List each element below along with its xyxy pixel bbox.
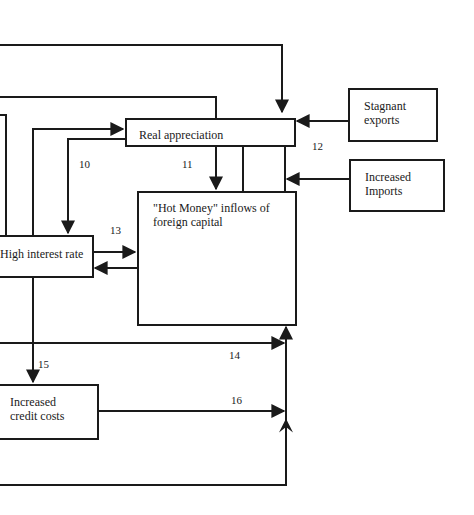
node-credit-costs-line1: Increased xyxy=(10,395,97,409)
node-increased-imports: Increased Imports xyxy=(349,159,445,212)
node-high-interest-rate-label: High interest rate xyxy=(0,247,92,261)
node-increased-imports-line1: Increased xyxy=(365,170,443,184)
edge-label-16: 16 xyxy=(231,394,242,406)
node-stagnant-exports: Stagnant exports xyxy=(348,88,438,142)
node-hot-money: "Hot Money" inflows of foreign capital xyxy=(137,191,297,326)
edge-top-feedback xyxy=(0,45,282,112)
node-real-appreciation: Real appreciation xyxy=(125,118,296,147)
edge-second-feedback xyxy=(0,97,216,118)
node-high-interest-rate: High interest rate xyxy=(0,235,94,278)
edge-label-14: 14 xyxy=(229,349,240,361)
node-stagnant-exports-line2: exports xyxy=(364,113,436,127)
edge-label-13: 13 xyxy=(110,224,121,236)
edge-label-10: 10 xyxy=(79,158,90,170)
edge-label-15: 15 xyxy=(38,358,49,370)
node-credit-costs-line2: credit costs xyxy=(10,409,97,423)
node-stagnant-exports-line1: Stagnant xyxy=(364,99,436,113)
node-real-appreciation-label: Real appreciation xyxy=(139,128,294,142)
edge-10 xyxy=(68,139,125,233)
edge-hir-to-ra xyxy=(33,129,123,235)
node-increased-credit-costs: Increased credit costs xyxy=(0,384,99,440)
edge-label-11: 11 xyxy=(182,158,193,170)
node-hot-money-line2: foreign capital xyxy=(153,215,295,229)
node-increased-imports-line2: Imports xyxy=(365,184,443,198)
node-hot-money-line1: "Hot Money" inflows of xyxy=(153,201,295,215)
edge-label-12: 12 xyxy=(312,140,323,152)
edge-left-vertical xyxy=(0,115,6,235)
